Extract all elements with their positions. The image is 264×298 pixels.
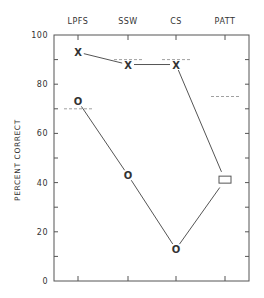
y-tick-label: 0	[42, 277, 48, 286]
series-segment	[179, 187, 219, 244]
y-tick-labels: 020406080100	[31, 31, 48, 286]
o-marker: O	[74, 96, 83, 107]
o-marker: O	[124, 170, 133, 181]
category-label: SSW	[118, 17, 138, 26]
rectangle-marker	[219, 176, 231, 183]
x-ticks	[78, 35, 225, 281]
series-segment	[178, 70, 221, 172]
x-marker: X	[74, 47, 82, 58]
series-segment	[81, 106, 124, 170]
data-series: XXXOOO	[74, 47, 231, 255]
chart: 020406080100 LPFSSSWCSPATT PERCENT CORRE…	[0, 0, 264, 298]
x-marker: X	[124, 60, 132, 71]
category-label: CS	[170, 17, 182, 26]
x-marker: X	[172, 60, 180, 71]
category-labels: LPFSSSWCSPATT	[68, 17, 236, 26]
series-segment	[84, 54, 122, 63]
y-axis-label: PERCENT CORRECT	[13, 119, 22, 201]
y-tick-label: 20	[37, 228, 48, 237]
o-marker: O	[172, 244, 181, 255]
y-tick-label: 60	[37, 129, 48, 138]
y-tick-label: 100	[31, 31, 48, 40]
category-label: PATT	[215, 17, 236, 26]
y-ticks	[54, 60, 249, 257]
series-segment	[131, 180, 172, 244]
norm-lines	[64, 60, 241, 109]
y-tick-label: 40	[37, 179, 48, 188]
plot-frame	[54, 35, 249, 281]
category-label: LPFS	[68, 17, 89, 26]
y-tick-label: 80	[37, 80, 48, 89]
